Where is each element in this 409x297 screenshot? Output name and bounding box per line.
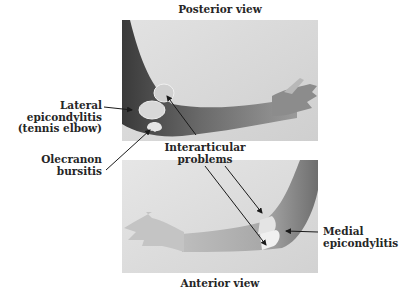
- arrow-interarticular-bottom-2: [205, 166, 266, 245]
- arrow-olecranon-bursitis: [106, 130, 150, 170]
- arrow-interarticular-bottom-1: [225, 166, 262, 213]
- arrow-interarticular-top: [167, 96, 196, 135]
- label-line: (tennis elbow): [0, 123, 102, 135]
- label-line: Olecranon: [0, 154, 102, 166]
- label-line: Lateral: [0, 100, 102, 112]
- arrow-lateral-epicondylitis: [104, 107, 132, 110]
- label-medial-epicondylitis: Medial epicondylitis: [323, 226, 398, 249]
- label-lateral-epicondylitis: Lateral epicondylitis (tennis elbow): [0, 100, 102, 135]
- arrow-medial-epicondylitis: [286, 231, 318, 232]
- label-olecranon-bursitis: Olecranon bursitis: [0, 154, 102, 177]
- label-line: Interarticular: [160, 142, 250, 154]
- label-line: Medial: [323, 226, 398, 238]
- label-interarticular-problems: Interarticular problems: [160, 142, 250, 165]
- label-line: bursitis: [0, 166, 102, 178]
- label-line: problems: [160, 154, 250, 166]
- label-line: epicondylitis: [323, 238, 398, 250]
